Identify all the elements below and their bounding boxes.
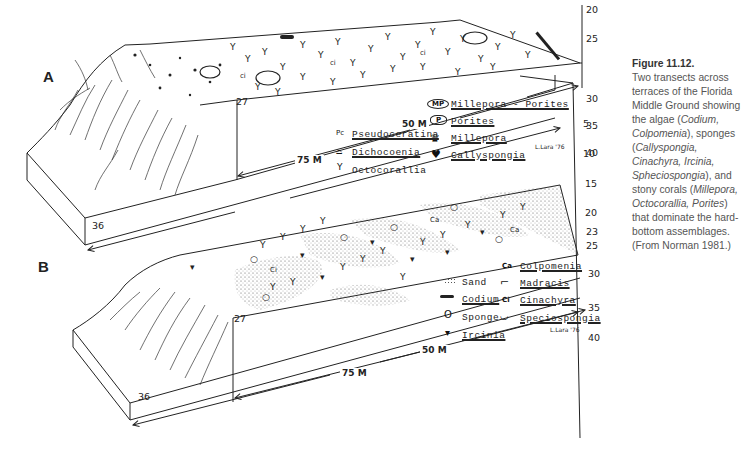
svg-text:ci: ci — [240, 72, 246, 80]
octocorallia-symbol-icon: Y — [337, 162, 343, 172]
svg-text:Y: Y — [334, 37, 341, 47]
legend-codium: Codium — [462, 294, 499, 305]
figure-caption: Figure 11.12. Two transects across terra… — [632, 57, 742, 253]
right-scale-tick: 40 — [588, 332, 600, 343]
svg-text:Y: Y — [349, 58, 356, 68]
svg-text:Y: Y — [259, 240, 266, 250]
svg-text:Y: Y — [274, 87, 281, 97]
svg-text:ci: ci — [330, 59, 336, 67]
svg-text:Y: Y — [244, 54, 251, 64]
right-scale-tick: 25 — [586, 240, 598, 251]
svg-text:▾: ▾ — [320, 272, 325, 282]
panel-a-signature: L.Lara '76 — [535, 143, 565, 150]
colpomenia-symbol-icon: Ca — [502, 262, 512, 270]
legend-cinachyra: Cinachyra — [520, 295, 576, 306]
svg-text:Y: Y — [477, 54, 484, 64]
svg-text:Y: Y — [419, 237, 426, 247]
svg-text:Y: Y — [269, 282, 276, 292]
svg-text:Y: Y — [299, 72, 306, 82]
legend-octocorallia: Octocorallia — [352, 165, 426, 176]
panel-a-dim-50m: 50 M — [400, 119, 429, 129]
figure-number: Figure 11.12. — [632, 57, 742, 71]
svg-text:Y: Y — [454, 67, 461, 77]
svg-text:ci: ci — [420, 49, 426, 57]
svg-text:Y: Y — [279, 62, 286, 72]
svg-text:Y: Y — [499, 210, 506, 220]
svg-text:Y: Y — [319, 216, 326, 226]
svg-text:Y: Y — [367, 44, 374, 54]
panel-b-sand-patches — [234, 185, 578, 310]
legend-colpomenia: Colpomenia — [520, 261, 582, 272]
svg-text:○: ○ — [250, 254, 258, 264]
svg-text:○: ○ — [262, 292, 270, 302]
panel-b-dim-50m: 50 M — [420, 345, 449, 355]
legend-sponge: Sponge — [462, 312, 499, 323]
codium-symbol-icon — [440, 295, 454, 298]
panel-a-dim-75m: 75 M — [295, 155, 324, 165]
caption-codium: Codium, — [681, 114, 719, 125]
legend-callyspongia: Callyspongia — [451, 150, 525, 161]
svg-text:Y: Y — [524, 50, 531, 60]
svg-text:Y: Y — [519, 202, 526, 212]
caption-sponges: Callyspongia, Cinachyra, Ircinia, Spheci… — [632, 142, 714, 181]
svg-text:Y: Y — [384, 32, 391, 42]
svg-text:Y: Y — [494, 42, 501, 52]
legend-millepora: Millepora — [451, 133, 507, 144]
svg-text:○: ○ — [340, 232, 348, 242]
ircinia-symbol-icon: ▾ — [445, 327, 450, 338]
legend-porites: Porites — [451, 116, 494, 127]
panel-a-terrain-hatching — [55, 50, 198, 195]
svg-text:▾: ▾ — [480, 227, 485, 237]
svg-text:▾: ▾ — [410, 254, 415, 264]
legend-speciospongia: Speciospongia — [520, 313, 601, 324]
svg-text:Y: Y — [399, 52, 406, 62]
right-scale-tick: 5 — [583, 118, 589, 129]
panel-b-terrain-hatching — [110, 288, 228, 385]
svg-text:○: ○ — [390, 222, 398, 232]
svg-text:Y: Y — [429, 27, 436, 37]
svg-text:Y: Y — [261, 47, 268, 57]
panel-b-signature: L.Lara '76 — [550, 326, 580, 333]
legend-ircinia: Ircinia — [462, 330, 505, 341]
svg-text:Y: Y — [399, 272, 406, 282]
svg-text:▾: ▾ — [300, 250, 305, 260]
legend-pseudoceratina: Pseudoceratina — [352, 129, 439, 140]
porites-symbol-icon: P — [430, 115, 447, 125]
cinachyra-symbol-icon: Ci — [502, 296, 510, 304]
svg-text:Y: Y — [489, 62, 496, 72]
right-scale-tick: 30 — [588, 268, 600, 279]
svg-text:Y: Y — [299, 224, 306, 234]
legend-sand: Sand — [462, 277, 487, 288]
legend-millepora-porites: Millepora - Porites — [451, 99, 569, 110]
panel-b-depth-front: 36 — [138, 391, 150, 402]
svg-text:Y: Y — [359, 254, 366, 264]
svg-text:Y: Y — [329, 77, 336, 87]
svg-text:Ca: Ca — [430, 216, 439, 224]
madracis-symbol-icon: ⌐ — [500, 276, 509, 289]
svg-text:Y: Y — [459, 34, 466, 44]
svg-text:Y: Y — [464, 220, 471, 230]
svg-text:Y: Y — [279, 232, 286, 242]
caption-colpomenia: Colpomenia — [632, 128, 687, 139]
right-scale-tick: 23 — [586, 226, 598, 237]
sand-stipple-icon — [444, 278, 456, 284]
panel-b-dim-75m: 75 M — [340, 368, 369, 378]
svg-text:Y: Y — [444, 47, 451, 57]
panel-b-depth-corner: 27 — [234, 313, 246, 324]
panel-a-scale-tick: 20 — [586, 4, 598, 15]
legend-madracis: Madracis — [520, 278, 570, 289]
svg-text:Y: Y — [419, 62, 426, 72]
panel-a-depth-corner: 27 — [236, 96, 248, 107]
panel-a-scale-tick: 30 — [586, 93, 598, 104]
speciospongia-symbol-icon: ◡ — [500, 310, 509, 321]
svg-text:Y: Y — [289, 277, 296, 287]
svg-text:Y: Y — [509, 30, 516, 40]
svg-text:Y: Y — [229, 42, 236, 52]
svg-text:Ca: Ca — [510, 226, 519, 234]
svg-text:Y: Y — [439, 230, 446, 240]
svg-text:Y: Y — [359, 70, 366, 80]
millepora-porites-symbol-icon: MP — [427, 99, 449, 109]
callyspongia-symbol-icon: ♥ — [431, 148, 441, 161]
right-scale-tick: 15 — [585, 178, 597, 189]
panel-a-scale-tick: 25 — [586, 33, 598, 44]
